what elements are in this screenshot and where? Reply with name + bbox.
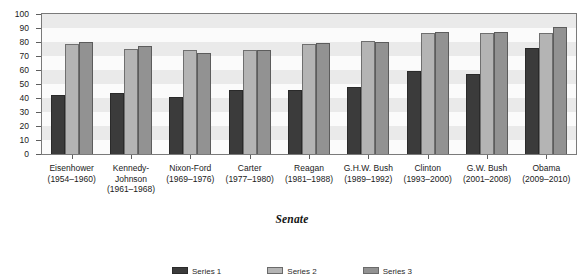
bar[interactable]	[51, 95, 65, 155]
bar[interactable]	[124, 49, 138, 154]
category-years: (1961–1968)	[101, 184, 160, 195]
category-name: G.H.W. Bush	[339, 163, 398, 174]
bar[interactable]	[539, 33, 553, 154]
category-name: Clinton	[398, 163, 457, 174]
legend-swatch	[267, 267, 283, 274]
bar[interactable]	[288, 90, 302, 154]
bar[interactable]	[347, 87, 361, 154]
bars-layer	[42, 14, 576, 154]
x-axis-ticks	[42, 155, 576, 160]
category-name: Nixon-Ford	[161, 163, 220, 174]
category-years: (1993–2000)	[398, 174, 457, 185]
category-years: (1981–1988)	[279, 174, 338, 185]
bar-group	[101, 14, 160, 154]
bar[interactable]	[480, 33, 494, 154]
bar[interactable]	[302, 44, 316, 154]
bar-group	[517, 14, 576, 154]
bar[interactable]	[243, 50, 257, 154]
y-tick-label: 20	[20, 122, 29, 131]
x-tick-mark	[131, 155, 132, 159]
legend-item[interactable]: Series 3	[363, 267, 412, 275]
legend-swatch	[363, 267, 379, 274]
x-axis-labels: Eisenhower(1954–1960)Kennedy-Johnson(196…	[41, 163, 577, 208]
category-name: Reagan	[279, 163, 338, 174]
bar[interactable]	[421, 33, 435, 154]
category-years: (2001–2008)	[457, 174, 516, 185]
category-name: G.W. Bush	[457, 163, 516, 174]
y-axis: 0102030405060708090100	[0, 0, 41, 160]
category-name: Carter	[220, 163, 279, 174]
x-category-label: G.H.W. Bush(1989–1992)	[339, 163, 398, 184]
x-tick-mark	[546, 155, 547, 159]
legend-label: Series 3	[383, 267, 412, 275]
bar[interactable]	[257, 50, 271, 154]
legend-item[interactable]: Series 2	[267, 267, 316, 275]
legend-item[interactable]: Series 1	[172, 267, 221, 275]
x-tick-mark	[250, 155, 251, 159]
y-tick-label: 90	[20, 24, 29, 33]
bar-group	[220, 14, 279, 154]
category-years: (1989–1992)	[339, 174, 398, 185]
x-tick-mark	[72, 155, 73, 159]
bar[interactable]	[138, 46, 152, 154]
bar[interactable]	[375, 42, 389, 154]
bar[interactable]	[169, 97, 183, 154]
x-category-label: Nixon-Ford(1969–1976)	[161, 163, 220, 184]
legend-swatch	[172, 267, 188, 274]
x-axis-title: Senate	[0, 213, 584, 225]
bar[interactable]	[110, 93, 124, 154]
x-tick-mark	[368, 155, 369, 159]
y-tick-label: 40	[20, 94, 29, 103]
y-tick-label: 50	[20, 80, 29, 89]
legend-label: Series 1	[192, 267, 221, 275]
bar-group	[457, 14, 516, 154]
bar[interactable]	[553, 27, 567, 154]
x-category-label: Carter(1977–1980)	[220, 163, 279, 184]
x-tick-mark	[190, 155, 191, 159]
bar-group	[398, 14, 457, 154]
y-tick-label: 0	[24, 150, 29, 159]
category-years: (1969–1976)	[161, 174, 220, 185]
bar[interactable]	[197, 53, 211, 155]
x-category-label: Kennedy-Johnson(1961–1968)	[101, 163, 160, 195]
bar[interactable]	[79, 42, 93, 154]
x-tick-mark	[309, 155, 310, 159]
bar[interactable]	[65, 44, 79, 154]
y-tick-label: 70	[20, 52, 29, 61]
category-name: Kennedy-	[101, 163, 160, 174]
category-years: (1977–1980)	[220, 174, 279, 185]
bar-group	[161, 14, 220, 154]
legend-label: Series 2	[287, 267, 316, 275]
category-years: (2009–2010)	[517, 174, 576, 185]
category-name: Obama	[517, 163, 576, 174]
x-tick-mark	[487, 155, 488, 159]
x-category-label: G.W. Bush(2001–2008)	[457, 163, 516, 184]
x-category-label: Reagan(1981–1988)	[279, 163, 338, 184]
senate-bar-chart-figure: 0102030405060708090100 Eisenhower(1954–1…	[0, 0, 584, 275]
x-tick-mark	[428, 155, 429, 159]
x-category-label: Eisenhower(1954–1960)	[42, 163, 101, 184]
bar[interactable]	[435, 32, 449, 154]
bar[interactable]	[361, 41, 375, 154]
category-years: (1954–1960)	[42, 174, 101, 185]
y-tick-label: 30	[20, 108, 29, 117]
bar[interactable]	[229, 90, 243, 154]
category-name-line2: Johnson	[101, 174, 160, 185]
x-category-label: Obama(2009–2010)	[517, 163, 576, 184]
bar[interactable]	[466, 74, 480, 154]
legend: Series 1Series 2Series 3	[0, 267, 584, 275]
y-tick-label: 100	[15, 10, 29, 19]
x-category-label: Clinton(1993–2000)	[398, 163, 457, 184]
category-name: Eisenhower	[42, 163, 101, 174]
bar-group	[279, 14, 338, 154]
bar[interactable]	[494, 32, 508, 154]
bar[interactable]	[407, 71, 421, 154]
bar[interactable]	[525, 48, 539, 154]
y-tick-label: 10	[20, 136, 29, 145]
bar[interactable]	[183, 50, 197, 154]
y-tick-label: 60	[20, 66, 29, 75]
bar-group	[339, 14, 398, 154]
bar-group	[42, 14, 101, 154]
bar[interactable]	[316, 43, 330, 154]
y-tick-label: 80	[20, 38, 29, 47]
